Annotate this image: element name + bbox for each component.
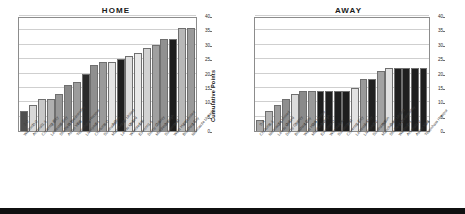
x-axis-tick: 3-1Newcastle United	[186, 133, 195, 189]
y-axis-tick-mark	[443, 118, 445, 119]
y-axis-tick-mark	[210, 132, 212, 133]
y-axis-tick-mark	[443, 75, 445, 76]
x-axis-tick: 1-2Leicester City	[350, 133, 359, 189]
chart-panel-home: HOME 0510152025303540Cumulative Points 2…	[0, 0, 232, 190]
x-axis-tick: 3-1Newcastle United	[264, 133, 273, 189]
charts-row: HOME 0510152025303540Cumulative Points 2…	[0, 0, 465, 190]
figure-sheet: HOME 0510152025303540Cumulative Points 2…	[0, 0, 465, 214]
x-axis-tick: 2-1Middlesbrough	[151, 133, 160, 189]
chart-title-home: HOME	[0, 6, 232, 15]
x-axis-tick: 2-3Wimbledon	[125, 133, 134, 189]
footer-gap	[0, 201, 465, 208]
gridline	[19, 15, 196, 16]
x-axis-tick: 0-1Arsenal	[402, 133, 411, 189]
y-axis-tick-mark	[443, 89, 445, 90]
x-axis-labels-away: 0-4Chelsea3-1Newcastle United2-1Leeds Un…	[254, 133, 429, 189]
x-axis-tick: 0-4Chelsea	[255, 133, 264, 189]
y-axis-tick-mark	[443, 60, 445, 61]
y-axis-line	[429, 17, 430, 132]
x-axis-tick: 1-0Bradford City	[177, 133, 186, 189]
x-axis-tick: 2-1Sheffield Wednesday	[385, 133, 394, 189]
x-axis-tick: 2-0Leicester City	[45, 133, 54, 189]
x-axis-labels-home: 2-0Watford0-0Arsenal1-1Coventry City2-0L…	[18, 133, 196, 189]
y-axis-tick-mark	[210, 46, 212, 47]
y-axis-tick-mark	[443, 132, 445, 133]
y-axis-tick-mark	[443, 17, 445, 18]
x-axis-tick: 3-1Coventry City	[342, 133, 351, 189]
chart-title-away: AWAY	[232, 6, 465, 15]
x-axis-tick: 3-0Southampton	[98, 133, 107, 189]
bar	[178, 28, 186, 132]
y-axis-tick-mark	[210, 17, 212, 18]
x-axis-tick: 2-0Watford	[19, 133, 28, 189]
x-axis-tick: 2-2Southampton	[368, 133, 377, 189]
y-axis-tick-mark	[443, 103, 445, 104]
x-axis-tick: 1-4Sunderland	[333, 133, 342, 189]
x-axis-tick: 4-0Tottenham Hotspur	[72, 133, 81, 189]
x-axis-tick: 1-3Leeds United	[116, 133, 125, 189]
x-axis-tick: 3-2Everton	[316, 133, 325, 189]
x-axis-tick: 0-0Arsenal	[28, 133, 37, 189]
x-axis-tick: 2-1Sunderland	[160, 133, 169, 189]
x-axis-tick: 1-2Aston Villa	[411, 133, 420, 189]
x-axis-tick: 4-0Wimbledon	[324, 133, 333, 189]
y-axis-tick-mark	[443, 31, 445, 32]
y-axis-tick-mark	[443, 46, 445, 47]
x-axis-tick: 1-1Coventry City	[37, 133, 46, 189]
x-axis-tick: 1-1Derby County	[142, 133, 151, 189]
x-axis-tick: 2-2Watford	[394, 133, 403, 189]
x-axis-tick: 1-3Tottenham Hotspur	[419, 133, 428, 189]
x-axis-tick: 0-2Liverpool	[81, 133, 90, 189]
footer-bar	[0, 208, 465, 214]
x-axis-tick: 1-0Sheffield Wednesday	[54, 133, 63, 189]
gridline	[255, 15, 429, 16]
x-axis-tick: 2-1Leeds United	[272, 133, 281, 189]
x-axis-tick: 0-1West Ham United	[169, 133, 178, 189]
y-axis-tick-mark	[210, 31, 212, 32]
x-axis-tick: 3-1Derby County	[281, 133, 290, 189]
x-axis-tick: 1-1Liverpool	[359, 133, 368, 189]
x-axis-tick: 0-1Middlesbrough	[307, 133, 316, 189]
chart-panel-away: AWAY 0510152025303540 0-4Chelsea3-1Newca…	[232, 0, 465, 190]
x-axis-tick: 2-0Manchester United	[107, 133, 116, 189]
x-axis-tick: 4-2West Ham United	[298, 133, 307, 189]
x-axis-tick: 1-1Everton	[133, 133, 142, 189]
y-axis-tick-mark	[210, 60, 212, 61]
x-axis-tick: 4-1Chelsea	[89, 133, 98, 189]
x-axis-tick: 0-1Bradford City	[290, 133, 299, 189]
x-axis-tick: 0-1Aston Villa	[63, 133, 72, 189]
x-axis-tick: 0-1Manchester United	[376, 133, 385, 189]
